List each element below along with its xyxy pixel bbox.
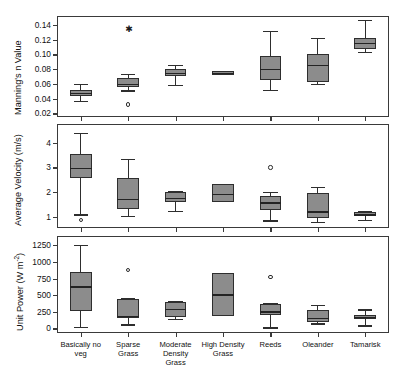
- lower-whisker-cap: [311, 323, 325, 324]
- lower-whisker-cap: [358, 325, 372, 326]
- y-tick-mark: [53, 69, 57, 70]
- upper-whisker-cap: [168, 65, 182, 66]
- outlier-marker: [268, 165, 272, 169]
- median-line: [117, 84, 139, 85]
- y-tick-label: 1: [15, 212, 51, 222]
- y-tick-label: 4: [15, 138, 51, 148]
- median-line: [70, 168, 92, 169]
- box-iqr: [117, 78, 139, 87]
- box-iqr: [260, 304, 282, 316]
- y-tick-mark: [53, 84, 57, 85]
- plot-frame: [57, 16, 389, 117]
- y-tick-mark: [53, 245, 57, 246]
- y-tick-label: 0.06: [15, 79, 51, 89]
- x-tick-mark: [365, 228, 366, 232]
- lower-whisker: [175, 202, 176, 211]
- upper-whisker-cap: [74, 84, 88, 85]
- lower-whisker-cap: [358, 52, 372, 53]
- median-line: [354, 214, 376, 215]
- lower-whisker: [270, 210, 271, 220]
- y-tick-mark: [53, 99, 57, 100]
- boxplot-figure: Manning's n Value0.020.040.060.080.100.1…: [0, 0, 401, 384]
- upper-whisker-cap: [358, 20, 372, 21]
- x-axis-label-3: ModerateDensityGrass: [150, 340, 202, 368]
- median-line: [165, 73, 187, 74]
- x-axis-label-6: Oleander: [292, 340, 344, 349]
- median-line: [117, 199, 139, 200]
- upper-whisker-cap: [358, 309, 372, 310]
- y-tick-label: 250: [15, 307, 51, 317]
- x-tick-mark: [223, 117, 224, 121]
- upper-whisker: [80, 245, 81, 272]
- x-tick-mark: [270, 333, 271, 337]
- x-tick-mark: [176, 333, 177, 337]
- x-tick-mark: [128, 117, 129, 121]
- upper-whisker-cap: [311, 187, 325, 188]
- y-tick-mark: [53, 192, 57, 193]
- median-line: [212, 194, 234, 195]
- y-tick-label: 0: [15, 323, 51, 333]
- median-line: [307, 211, 329, 212]
- box-iqr: [307, 54, 329, 82]
- median-line: [117, 316, 139, 317]
- x-tick-mark: [128, 333, 129, 337]
- lower-whisker-cap: [311, 222, 325, 223]
- y-tick-mark: [53, 167, 57, 168]
- lower-whisker-cap: [121, 90, 135, 91]
- x-tick-mark: [81, 117, 82, 121]
- lower-whisker: [270, 315, 271, 327]
- box-iqr: [260, 56, 282, 80]
- lower-whisker-cap: [168, 319, 182, 320]
- y-tick-mark: [53, 40, 57, 41]
- y-tick-mark: [53, 25, 57, 26]
- outlier-marker: [126, 102, 130, 106]
- box-iqr: [70, 272, 92, 311]
- outlier-marker: [268, 275, 272, 279]
- y-tick-mark: [53, 54, 57, 55]
- median-line: [354, 43, 376, 44]
- lower-whisker-cap: [74, 214, 88, 215]
- median-line: [165, 198, 187, 199]
- median-line: [260, 311, 282, 312]
- box-iqr: [212, 184, 234, 202]
- upper-whisker-cap: [311, 305, 325, 306]
- median-line: [165, 309, 187, 310]
- y-tick-label: 750: [15, 274, 51, 284]
- y-tick-label: 2: [15, 187, 51, 197]
- y-tick-label: 0.12: [15, 35, 51, 45]
- lower-whisker-cap: [358, 220, 372, 221]
- lower-whisker: [80, 178, 81, 214]
- lower-whisker-cap: [74, 327, 88, 328]
- median-line: [354, 317, 376, 318]
- box-iqr: [70, 154, 92, 178]
- y-tick-mark: [53, 113, 57, 114]
- upper-whisker: [270, 31, 271, 56]
- y-tick-mark: [53, 217, 57, 218]
- x-tick-mark: [223, 333, 224, 337]
- lower-whisker: [128, 318, 129, 325]
- upper-whisker: [317, 38, 318, 54]
- median-line: [260, 69, 282, 70]
- median-line: [70, 286, 92, 287]
- lower-whisker: [175, 76, 176, 86]
- x-tick-mark: [128, 228, 129, 232]
- lower-whisker-cap: [74, 101, 88, 102]
- x-tick-mark: [223, 228, 224, 232]
- x-tick-mark: [318, 117, 319, 121]
- box-iqr: [117, 178, 139, 208]
- median-line: [212, 294, 234, 295]
- y-tick-label: 1250: [15, 240, 51, 250]
- y-tick-label: 0.08: [15, 64, 51, 74]
- extreme-outlier-marker: ✱: [125, 26, 133, 32]
- x-axis-label-1: Basically noveg: [55, 340, 107, 358]
- median-line: [70, 93, 92, 94]
- y-tick-label: 1000: [15, 257, 51, 267]
- x-axis-label-2: SparseGrass: [102, 340, 154, 358]
- upper-whisker-cap: [74, 133, 88, 134]
- y-tick-label: 0.02: [15, 108, 51, 118]
- x-tick-mark: [365, 333, 366, 337]
- lower-whisker-cap: [263, 220, 277, 221]
- x-tick-mark: [318, 333, 319, 337]
- y-tick-mark: [53, 143, 57, 144]
- lower-whisker-cap: [263, 327, 277, 328]
